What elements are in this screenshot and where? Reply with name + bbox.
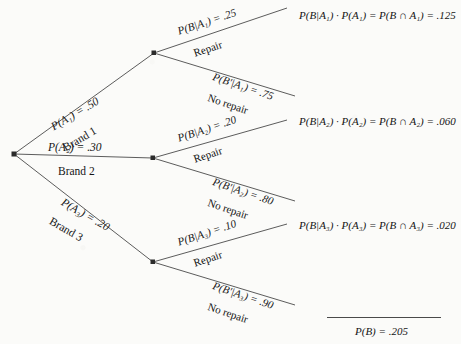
outcome-expression-brand1: P(B|A₁) · P(A₁) = P(B ∩ A₁) = .125	[299, 10, 456, 21]
node-brand3	[151, 260, 156, 265]
edge-root-brand2	[14, 154, 153, 158]
summation-rule	[327, 317, 441, 318]
outcome-expression-brand3: P(B|A₃) · P(A₃) = P(B ∩ A₃) = .020	[299, 220, 456, 231]
node-root	[12, 152, 17, 157]
node-brand2	[151, 156, 156, 161]
outcome-expression-brand2: P(B|A₂) · P(A₂) = P(B ∩ A₂) = .060	[299, 116, 456, 127]
branch-name-brand2: Brand 2	[58, 166, 95, 178]
total-probability: P(B) = .205	[355, 326, 408, 337]
branch-prob-brand2: P(A₂) = .30	[48, 142, 102, 154]
probability-tree-diagram: P(A₁) = .50 Brand 1 P(B|A₁) = .25 Repair…	[0, 0, 461, 344]
node-brand1	[152, 51, 157, 56]
